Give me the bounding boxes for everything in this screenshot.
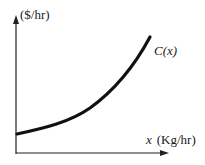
curve-label: C(x) [154, 44, 177, 58]
x-axis-variable: x [146, 132, 152, 147]
cost-curve [17, 37, 150, 134]
x-axis-arrow-icon [160, 150, 169, 156]
y-axis-arrow-icon [13, 15, 19, 24]
x-axis-label: x(Kg/hr) [146, 133, 196, 147]
y-axis-label: ($/hr) [20, 8, 50, 22]
x-axis-units: (Kg/hr) [157, 132, 196, 147]
